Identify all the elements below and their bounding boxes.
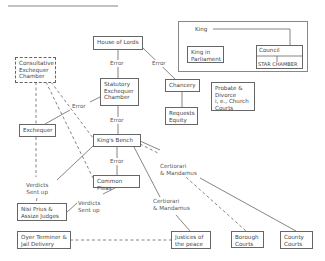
- star-chamber-label: STAR CHAMBER: [258, 61, 297, 68]
- error-label-statutory-kb: Error: [110, 117, 124, 124]
- error-label-hol-chancery: Error: [152, 60, 166, 67]
- court-diagram: Consultative Exchequer Chamber House of …: [0, 0, 325, 261]
- borough-courts-node: Borough Courts: [231, 231, 264, 248]
- house-of-lords-node: House of Lords: [93, 36, 143, 50]
- exchequer-node: Exchequer: [19, 124, 56, 137]
- error-label-kb-cp: Error: [110, 158, 124, 165]
- county-courts-node: County Courts: [280, 231, 313, 249]
- error-label-hol-statutory: Error: [110, 60, 124, 67]
- kings-bench-node: King's Bench: [93, 134, 141, 147]
- verdicts-label-left: Verdicts Sent up: [26, 182, 48, 195]
- consultative-exchequer-chamber-node: Consultative Exchequer Chamber: [15, 57, 56, 83]
- king-in-parliament-node: King in Parliament: [187, 46, 224, 63]
- council-label: Council: [259, 47, 280, 54]
- oyer-terminer-node: Oyer Terminer & Jail Delivery: [17, 231, 71, 249]
- statutory-exchequer-chamber-node: Statutory Exchequer Chamber: [100, 78, 139, 106]
- justices-of-the-peace-node: Justices of the peace: [171, 231, 211, 249]
- king-label: King: [195, 26, 207, 33]
- probate-divorce-node: Probate & Divorce i, e., Church Courts: [211, 82, 255, 111]
- nisi-prius-node: Nisi Prius & Assize Judges: [17, 203, 67, 221]
- chancery-node: Chancery: [165, 79, 200, 92]
- error-label-exchequer: Error: [72, 103, 86, 110]
- requests-equity-node: Requests Equity: [165, 107, 198, 125]
- verdicts-label-right: Verdicts Sent up: [78, 200, 100, 213]
- certiorari-label-upper: Certiorari & Mandamus: [160, 163, 197, 176]
- common-pleas-node: Common Pleas: [93, 175, 140, 188]
- certiorari-label-lower: Certiorari & Mandamus: [153, 198, 190, 211]
